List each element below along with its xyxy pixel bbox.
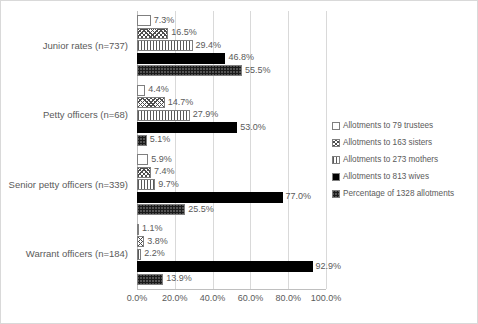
bar-value-label: 5.1% <box>150 134 171 145</box>
bar-row: 55.5% <box>137 65 326 76</box>
bar-solid-black[interactable] <box>137 261 313 272</box>
bar-dense-dots[interactable] <box>137 65 242 76</box>
bar-row: 46.8% <box>137 53 326 64</box>
bar-value-label: 13.9% <box>166 273 192 284</box>
chart-figure: Junior rates (n=737)Petty officers (n=68… <box>0 0 478 324</box>
bar-row: 53.0% <box>137 122 326 133</box>
legend-swatch-solid-black <box>332 173 340 181</box>
legend-item[interactable]: Allotments to 163 sisters <box>332 134 472 151</box>
legend-item[interactable]: Allotments to 79 trustees <box>332 117 472 134</box>
bar-row: 5.9% <box>137 154 326 165</box>
bar-value-label: 55.5% <box>245 65 271 76</box>
bar-sparse-dots[interactable] <box>137 224 139 235</box>
x-tick-label: 0.0% <box>127 292 148 304</box>
bar-value-label: 7.4% <box>154 166 175 177</box>
chart-legend: Allotments to 79 trusteesAllotments to 1… <box>332 117 472 202</box>
bar-sparse-dots[interactable] <box>137 154 148 165</box>
bar-vertical-lines[interactable] <box>137 179 155 190</box>
bar-value-label: 46.8% <box>228 52 254 63</box>
bar-vertical-lines[interactable] <box>137 110 190 121</box>
bar-value-label: 2.2% <box>144 248 165 259</box>
bar-row: 25.5% <box>137 204 326 215</box>
bar-row: 77.0% <box>137 192 326 203</box>
x-tick-label: 100.0% <box>311 292 342 304</box>
category-label: Petty officers (n=68) <box>1 110 128 120</box>
x-tick-label: 20.0% <box>162 292 188 304</box>
gridline-1000pct <box>326 11 327 289</box>
x-axis-line <box>137 289 326 290</box>
bar-value-label: 29.4% <box>196 40 222 51</box>
bar-row: 14.7% <box>137 97 326 108</box>
x-tick-label: 80.0% <box>275 292 301 304</box>
bar-row: 1.1% <box>137 224 326 235</box>
category-label: Warrant officers (n=184) <box>1 249 128 259</box>
legend-label: Allotments to 813 wives <box>343 172 429 181</box>
bar-cross-hatch[interactable] <box>137 167 151 178</box>
legend-swatch-cross-hatch <box>332 139 340 147</box>
legend-label: Allotments to 79 trustees <box>343 121 433 130</box>
legend-label: Allotments to 163 sisters <box>343 138 432 147</box>
bar-row: 13.9% <box>137 274 326 285</box>
legend-swatch-sparse-dots <box>332 122 340 130</box>
legend-item[interactable]: Allotments to 273 mothers <box>332 151 472 168</box>
legend-label: Allotments to 273 mothers <box>343 155 438 164</box>
bar-value-label: 7.3% <box>154 15 175 26</box>
bar-row: 7.3% <box>137 15 326 26</box>
bar-solid-black[interactable] <box>137 122 237 133</box>
bar-solid-black[interactable] <box>137 192 283 203</box>
bar-row: 3.8% <box>137 236 326 247</box>
bar-row: 5.1% <box>137 135 326 146</box>
bar-value-label: 5.9% <box>151 154 172 165</box>
x-axis-ticks: 0.0%20.0%40.0%60.0%80.0%100.0% <box>1 292 478 306</box>
legend-swatch-dense-dots <box>332 190 340 198</box>
bar-row: 16.5% <box>137 28 326 39</box>
bar-vertical-lines[interactable] <box>137 40 193 51</box>
bar-row: 9.7% <box>137 179 326 190</box>
bar-dense-dots[interactable] <box>137 135 147 146</box>
category-label: Junior rates (n=737) <box>1 41 128 51</box>
bar-dense-dots[interactable] <box>137 204 185 215</box>
bar-row: 7.4% <box>137 167 326 178</box>
bar-value-label: 92.9% <box>316 261 342 272</box>
bar-value-label: 14.7% <box>168 97 194 108</box>
bar-row: 2.2% <box>137 249 326 260</box>
bar-dense-dots[interactable] <box>137 274 163 285</box>
plot-area: 7.3%16.5%29.4%46.8%55.5%4.4%14.7%27.9%53… <box>137 11 326 289</box>
bar-value-label: 3.8% <box>147 236 168 247</box>
category-axis: Junior rates (n=737)Petty officers (n=68… <box>1 11 132 289</box>
legend-item[interactable]: Percentage of 1328 allotments <box>332 185 472 202</box>
category-label: Senior petty officers (n=339) <box>1 180 128 190</box>
bar-cross-hatch[interactable] <box>137 97 165 108</box>
bar-value-label: 77.0% <box>286 191 312 202</box>
bar-sparse-dots[interactable] <box>137 15 151 26</box>
bar-row: 92.9% <box>137 261 326 272</box>
bar-row: 4.4% <box>137 85 326 96</box>
bar-value-label: 1.1% <box>142 223 163 234</box>
x-tick-label: 40.0% <box>200 292 226 304</box>
bar-vertical-lines[interactable] <box>137 249 141 260</box>
bar-cross-hatch[interactable] <box>137 28 168 39</box>
bar-row: 27.9% <box>137 110 326 121</box>
bar-value-label: 53.0% <box>240 122 266 133</box>
bar-value-label: 25.5% <box>188 204 214 215</box>
bar-cross-hatch[interactable] <box>137 236 144 247</box>
x-tick-label: 60.0% <box>238 292 264 304</box>
legend-swatch-vertical-lines <box>332 156 340 164</box>
legend-label: Percentage of 1328 allotments <box>343 189 454 198</box>
bar-value-label: 9.7% <box>158 179 179 190</box>
legend-item[interactable]: Allotments to 813 wives <box>332 168 472 185</box>
bar-value-label: 27.9% <box>193 109 219 120</box>
bar-value-label: 16.5% <box>171 27 197 38</box>
bar-sparse-dots[interactable] <box>137 85 145 96</box>
bar-value-label: 4.4% <box>148 84 169 95</box>
bar-solid-black[interactable] <box>137 53 225 64</box>
bar-row: 29.4% <box>137 40 326 51</box>
